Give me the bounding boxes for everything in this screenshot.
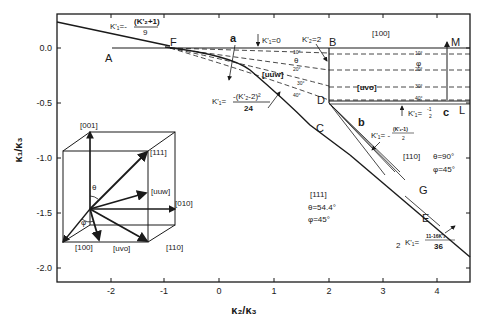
eq-top-num: (K'₂+1) [134,17,160,26]
cube-theta: θ [92,183,97,192]
point-B: B [329,36,336,48]
y-tick-3: -1.5 [36,208,52,218]
cube-label-010: [010] [175,199,193,208]
phi-symbol: φ [416,59,421,68]
y-tick-2: -1.0 [36,153,52,163]
region-uvo: [uvo] [357,83,377,92]
point-G: G [419,184,428,196]
angle-theta-10: 10° [293,49,301,55]
y-tick-0: 0.0 [39,43,52,53]
eq-b-den: 2 [402,135,405,141]
eq-parabola-den: 24 [244,104,253,113]
label-c: c [443,106,449,118]
x-axis-label: κ₂/κ₃ [231,304,256,316]
x-tick-6: 4 [434,286,439,296]
cube-label-100: [100] [75,243,93,252]
x-tick-4: 2 [326,286,331,296]
cube-label-001: [001] [80,121,98,130]
x-tick-0: -2 [107,286,115,296]
eq-k2-two: K'₂=2 [302,35,322,44]
eq-top: K'₁=- [110,22,127,31]
region-uuw: [uuw] [262,70,284,79]
d-fan-lines [329,103,405,180]
eq-k1-half: K'₁= [408,109,423,118]
angle-phi-30: 30° [415,83,423,89]
region-111: [111] [310,190,327,199]
label-a: a [230,32,237,44]
region-100: [100] [372,29,390,38]
eq-parabola-num: -(K'₂-2)² [233,92,261,101]
anisotropy-phase-diagram: 0.0 -0.5 -1.0 -1.5 -2.0 -2 -1 0 1 2 3 4 … [0,0,482,323]
eq-e-den: 36 [434,242,443,251]
x-tick-3: 1 [271,286,276,296]
angle-theta-40: 40° [293,92,301,98]
x-tick-5: 3 [380,286,385,296]
eq-parabola: K'₁= [212,97,227,106]
cube-label-111: [111] [150,148,167,157]
region-110-phi: φ=45° [433,165,455,174]
arrow-parabola [268,92,280,108]
x-tick-1: -1 [160,286,168,296]
point-D: D [317,94,325,106]
point-L: L [459,104,465,116]
point-A: A [105,52,113,64]
angle-theta-30: 30° [297,80,305,86]
region-110-theta: θ=90° [433,152,454,161]
phi-contours [329,54,470,100]
cube-label-uuw: [uuw] [151,187,170,196]
angle-theta-20: 20° [293,66,301,72]
x-tick-2: 0 [216,286,221,296]
y-tick-4: -2.0 [36,263,52,273]
angle-phi-40: 40° [415,95,423,101]
eq-e: K'₁= [405,238,420,247]
cube-label-110: [110] [166,243,183,252]
label-b: b [358,116,365,128]
eq-e-prefix: 2 [396,241,401,250]
cube-phi: φ [81,218,86,227]
eq-b-num: (K'₂-1) [393,126,408,132]
eq-e-num: 11-16K'₂ [426,233,446,239]
eq-k1-half-den: 2 [429,113,432,119]
eq-k1-zero: K'₁=0 [262,36,281,45]
cube-label-uvo: [uvo] [113,244,130,253]
y-tick-1: -0.5 [36,98,52,108]
region-111-phi: φ=45° [308,215,330,224]
point-C: C [316,122,324,134]
point-M: M [451,36,460,48]
point-E: E [422,212,429,224]
angle-phi-10: 10° [415,50,423,56]
region-111-theta: θ=54.4° [308,203,336,212]
theta-symbol: θ [294,56,299,65]
eq-b: K'₁= - [371,131,390,140]
eq-k1-half-num: -1 [427,106,432,112]
region-110: [110] [403,152,420,161]
y-axis-label: κ₁/κ₃ [12,138,24,163]
point-F: F [170,36,177,48]
arrow-e [445,226,455,233]
eq-top-den: 9 [143,28,148,37]
